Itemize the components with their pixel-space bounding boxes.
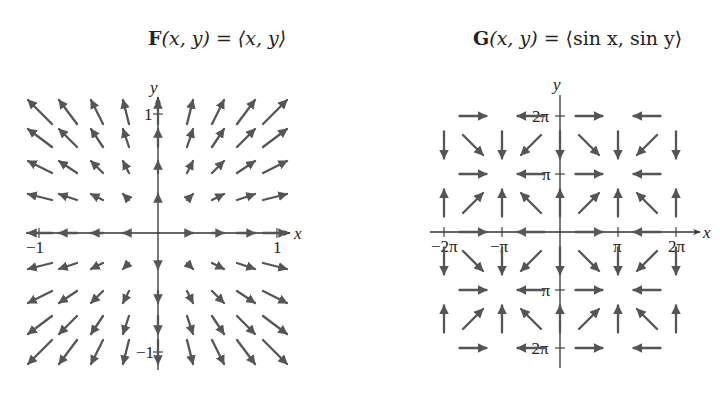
field-arrow	[123, 100, 129, 124]
field-arrow	[212, 263, 224, 269]
field-arrow	[579, 309, 599, 329]
field-arrow	[579, 251, 599, 271]
right-vector-field-plot: xy−2π−ππ2π2ππ−π−2π	[430, 75, 711, 368]
field-arrow	[637, 309, 657, 329]
field-arrow	[212, 194, 224, 200]
field-arrow	[123, 194, 129, 200]
field-arrow	[123, 291, 129, 303]
x-tick-label: 1	[273, 238, 282, 257]
field-arrow	[237, 129, 255, 147]
field-arrow	[91, 194, 103, 200]
field-arrow	[91, 316, 103, 334]
field-arrow	[59, 291, 77, 303]
field-arrow	[187, 129, 193, 147]
field-arrow	[463, 309, 483, 329]
field-arrow	[263, 129, 287, 147]
field-arrow	[263, 263, 287, 269]
field-arrow	[187, 340, 193, 364]
field-arrow	[237, 161, 255, 173]
field-arrow	[463, 135, 483, 155]
field-arrow	[212, 100, 224, 124]
field-arrow	[237, 263, 255, 269]
field-arrow	[521, 251, 541, 271]
field-arrow	[28, 100, 52, 124]
field-arrow	[28, 263, 52, 269]
field-arrow	[91, 100, 103, 124]
field-arrow	[123, 129, 129, 147]
field-arrow	[637, 135, 657, 155]
field-arrow	[237, 100, 255, 124]
field-arrow	[59, 161, 77, 173]
field-arrow	[28, 161, 52, 173]
field-arrow	[463, 251, 483, 271]
field-arrow	[263, 340, 287, 364]
field-arrow	[123, 316, 129, 334]
field-arrow	[212, 291, 224, 303]
field-arrow	[521, 309, 541, 329]
field-arrow	[521, 135, 541, 155]
field-arrow	[463, 193, 483, 213]
field-arrow	[28, 316, 52, 334]
field-arrow	[187, 291, 193, 303]
field-arrow	[91, 340, 103, 364]
field-arrow	[28, 340, 52, 364]
field-arrow	[237, 340, 255, 364]
field-arrow	[187, 161, 193, 173]
field-arrow	[28, 291, 52, 303]
y-axis-label: y	[551, 75, 561, 94]
x-axis-label: x	[702, 223, 711, 242]
field-arrow	[263, 161, 287, 173]
field-arrow	[212, 161, 224, 173]
y-axis-label: y	[148, 78, 158, 97]
field-arrow	[237, 316, 255, 334]
field-arrow	[59, 340, 77, 364]
y-tick-label: −1	[136, 343, 154, 362]
vector-field-figure: xy−111−1 xy−2π−ππ2π2ππ−π−2π	[0, 0, 720, 395]
field-arrow	[59, 100, 77, 124]
field-arrow	[123, 340, 129, 364]
field-arrow	[237, 291, 255, 303]
field-arrow	[187, 316, 193, 334]
field-arrow	[263, 100, 287, 124]
left-vector-field-plot: xy−111−1	[26, 78, 302, 370]
field-arrow	[91, 129, 103, 147]
x-tick-label: −π	[490, 237, 509, 256]
field-arrow	[637, 193, 657, 213]
field-arrow	[59, 316, 77, 334]
field-arrow	[187, 194, 193, 200]
field-arrow	[263, 316, 287, 334]
field-arrow	[212, 129, 224, 147]
field-arrow	[91, 291, 103, 303]
field-arrow	[212, 316, 224, 334]
field-arrow	[187, 263, 193, 269]
field-arrow	[521, 193, 541, 213]
field-arrow	[579, 135, 599, 155]
field-arrow	[123, 263, 129, 269]
field-arrow	[123, 161, 129, 173]
field-arrow	[59, 263, 77, 269]
field-arrow	[91, 263, 103, 269]
field-arrow	[28, 129, 52, 147]
field-arrow	[59, 194, 77, 200]
field-arrow	[212, 340, 224, 364]
x-axis-label: x	[293, 224, 302, 243]
field-arrow	[237, 194, 255, 200]
field-arrow	[263, 291, 287, 303]
field-arrow	[59, 129, 77, 147]
field-arrow	[579, 193, 599, 213]
y-tick-label: 1	[144, 105, 153, 124]
field-arrow	[28, 194, 52, 200]
x-tick-label: −1	[26, 238, 44, 257]
field-arrow	[263, 194, 287, 200]
field-arrow	[637, 251, 657, 271]
field-arrow	[187, 100, 193, 124]
field-arrow	[91, 161, 103, 173]
